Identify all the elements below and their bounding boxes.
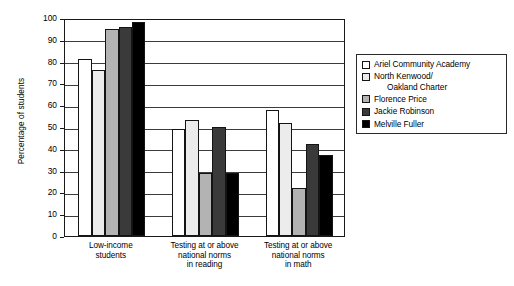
legend-item: North Kenwood/Oakland Charter bbox=[362, 71, 502, 91]
x-axis-category-label: Testing at or above national norms in ma… bbox=[243, 241, 353, 270]
y-axis-tick-label: 80 bbox=[48, 57, 57, 68]
bar bbox=[92, 70, 105, 236]
bar bbox=[279, 123, 292, 236]
legend-swatch-icon bbox=[362, 95, 370, 103]
legend-item: Jackie Robinson bbox=[362, 106, 502, 116]
y-axis-tick-label: 50 bbox=[48, 122, 57, 133]
y-axis-tick-label: 10 bbox=[48, 209, 57, 220]
bar bbox=[119, 27, 132, 236]
legend-swatch-icon bbox=[362, 73, 370, 81]
bar bbox=[266, 110, 279, 236]
legend-swatch-icon bbox=[362, 108, 370, 116]
bar bbox=[319, 155, 332, 236]
legend-label-line2: Oakland Charter bbox=[374, 82, 447, 92]
bar bbox=[226, 173, 239, 236]
plot-area bbox=[64, 19, 345, 237]
bar bbox=[212, 127, 225, 236]
bar bbox=[292, 188, 305, 236]
legend-swatch-icon bbox=[362, 61, 370, 69]
legend-label: Melville Fuller bbox=[374, 119, 424, 129]
y-axis-tick-label: 90 bbox=[48, 35, 57, 46]
bar bbox=[105, 29, 118, 236]
bar bbox=[172, 129, 185, 236]
y-axis-tick-label: 40 bbox=[48, 144, 57, 155]
legend-label: Ariel Community Academy bbox=[374, 59, 470, 69]
legend-item: Florence Price bbox=[362, 94, 502, 104]
legend-label: Florence Price bbox=[374, 94, 427, 104]
y-axis-ticks: 0102030405060708090100 bbox=[0, 19, 64, 237]
bar-chart: Percentage of students 01020304050607080… bbox=[0, 0, 514, 286]
legend-swatch-icon bbox=[362, 120, 370, 128]
bar bbox=[306, 144, 319, 236]
bar bbox=[132, 22, 145, 236]
legend-item: Melville Fuller bbox=[362, 119, 502, 129]
y-axis-tick-label: 100 bbox=[43, 13, 57, 24]
chart-legend: Ariel Community AcademyNorth Kenwood/Oak… bbox=[356, 54, 507, 134]
legend-label: Jackie Robinson bbox=[374, 106, 434, 116]
legend-item: Ariel Community Academy bbox=[362, 59, 502, 69]
bar bbox=[185, 120, 198, 236]
legend-label: North Kenwood/Oakland Charter bbox=[374, 71, 447, 91]
y-axis-tick-label: 60 bbox=[48, 100, 57, 111]
y-axis-tick-mark bbox=[60, 237, 64, 238]
bar bbox=[199, 173, 212, 236]
y-axis-tick-label: 30 bbox=[48, 166, 57, 177]
y-axis-tick-label: 20 bbox=[48, 187, 57, 198]
bar bbox=[78, 59, 91, 236]
y-axis-tick-label: 70 bbox=[48, 78, 57, 89]
